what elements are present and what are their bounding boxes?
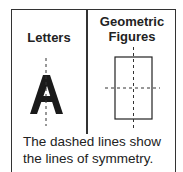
caption: The dashed lines show the lines of symme… xyxy=(23,133,183,167)
caption-line-2: the lines of symmetry. xyxy=(23,150,183,167)
caption-line-1: The dashed lines show xyxy=(23,133,183,150)
